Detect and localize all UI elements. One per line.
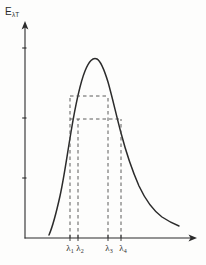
lambda-subscript: 2 <box>81 248 84 254</box>
x-tick-label-lambda4: λ4 <box>119 243 126 254</box>
lambda-subscript: 1 <box>71 248 74 254</box>
x-tick-label-lambda1: λ1 <box>66 243 73 254</box>
y-axis <box>22 21 29 238</box>
lambda-subscript: 3 <box>110 248 113 254</box>
lambda-subscript: 4 <box>124 248 127 254</box>
y-axis-label-main: E <box>5 6 12 17</box>
x-tick-label-lambda3: λ3 <box>105 243 112 254</box>
plot-canvas <box>0 0 206 265</box>
y-axis-label-subscript: λT <box>12 11 19 18</box>
figure-container: EλT λ1 λ2 λ3 λ4 <box>0 0 206 265</box>
y-axis-label: EλT <box>5 6 19 18</box>
vertical-dashed-lines <box>70 96 121 238</box>
emittance-curve <box>49 59 179 236</box>
x-axis <box>25 235 197 242</box>
y-axis-ticks <box>22 48 26 178</box>
x-tick-label-lambda2: λ2 <box>76 243 83 254</box>
